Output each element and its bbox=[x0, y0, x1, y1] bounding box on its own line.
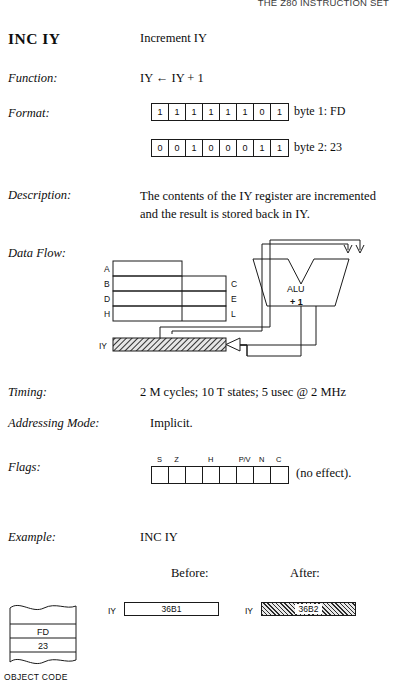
before-register-value: 36B1 bbox=[124, 602, 219, 616]
flag-cell bbox=[169, 467, 186, 483]
register-file bbox=[113, 261, 226, 321]
page: THE Z80 INSTRUCTION SET INC IY Increment… bbox=[0, 0, 395, 686]
before-register-tag: IY bbox=[108, 606, 116, 616]
flag-name: Z bbox=[168, 455, 185, 464]
arrow-into-iy bbox=[226, 338, 247, 356]
alu-label: ALU bbox=[287, 284, 305, 294]
timing-value: 2 M cycles; 10 T states; 5 usec @ 2 MHz bbox=[140, 385, 346, 400]
object-code-caption: OBJECT CODE bbox=[4, 672, 68, 682]
flag-cell bbox=[254, 467, 271, 483]
flag-cell bbox=[203, 467, 220, 483]
flag-cell bbox=[186, 467, 203, 483]
flags-label: Flags: bbox=[8, 460, 41, 475]
before-heading: Before: bbox=[171, 566, 208, 581]
flags-note: (no effect). bbox=[296, 466, 351, 481]
object-code-scroll: FD 23 bbox=[2, 598, 98, 678]
flag-name bbox=[219, 455, 236, 464]
flag-cell bbox=[271, 467, 288, 483]
register-label-iy: IY bbox=[99, 341, 107, 351]
alu-op-label: + 1 bbox=[290, 297, 303, 307]
dataflow-diagram: A B D H C E L IY ALU + 1 bbox=[0, 0, 395, 380]
addressing-mode-label: Addressing Mode: bbox=[8, 416, 100, 431]
register-label-l: L bbox=[231, 309, 236, 319]
after-register-value: 36B2 bbox=[295, 604, 323, 615]
register-label-c: C bbox=[231, 279, 237, 289]
flag-names: S Z H P/V N C bbox=[151, 455, 287, 464]
register-label-e: E bbox=[231, 294, 237, 304]
register-label-b: B bbox=[104, 279, 110, 289]
timing-label: Timing: bbox=[8, 385, 47, 400]
example-label: Example: bbox=[8, 530, 56, 545]
after-register-box: 36B2 bbox=[261, 602, 356, 616]
register-label-a: A bbox=[104, 264, 110, 274]
flag-name: N bbox=[253, 455, 270, 464]
example-value: INC IY bbox=[140, 530, 178, 545]
flag-name: S bbox=[151, 455, 168, 464]
iy-register-bar bbox=[113, 338, 226, 351]
flag-register bbox=[151, 466, 289, 484]
flag-cell bbox=[152, 467, 169, 483]
after-heading: After: bbox=[290, 566, 320, 581]
flag-name: P/V bbox=[236, 455, 253, 464]
object-code-byte-2: 23 bbox=[38, 641, 48, 651]
register-label-h: H bbox=[104, 309, 110, 319]
register-label-d: D bbox=[104, 294, 110, 304]
flag-name bbox=[185, 455, 202, 464]
flag-name: C bbox=[270, 455, 287, 464]
flag-cell bbox=[220, 467, 237, 483]
object-code-byte-1: FD bbox=[37, 627, 49, 637]
flag-cell bbox=[237, 467, 254, 483]
addressing-mode-value: Implicit. bbox=[150, 416, 193, 431]
after-register-tag: IY bbox=[245, 606, 253, 616]
flag-name: H bbox=[202, 455, 219, 464]
